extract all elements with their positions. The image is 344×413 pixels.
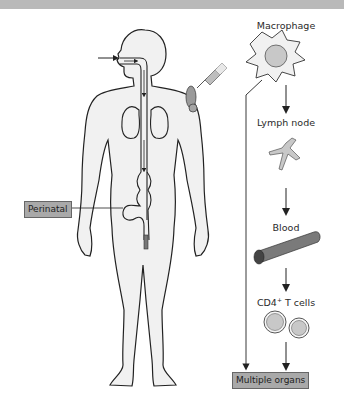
macrophage-icon [246, 30, 305, 82]
blood-label: Blood [250, 222, 322, 233]
lymph-node-label: Lymph node [250, 117, 322, 128]
perinatal-box: Perinatal [24, 201, 72, 218]
syringe-icon [197, 63, 227, 88]
multiple-organs-box: Multiple organs [232, 372, 309, 389]
cd4-t-cells-label: CD4+ T cells [250, 296, 322, 308]
macrophage-label: Macrophage [250, 20, 322, 31]
t-cells-icon [264, 311, 309, 338]
blood-vessel-icon [254, 232, 320, 264]
lymph-node-icon [269, 138, 300, 170]
